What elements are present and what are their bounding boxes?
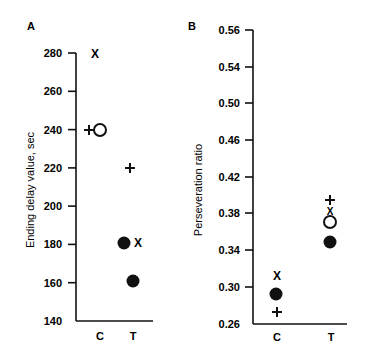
tick-label: 0.56 — [219, 24, 240, 36]
panel-b-category-c: C — [273, 331, 281, 343]
filled-circle-marker — [324, 236, 337, 249]
panel-a-category-t: T — [130, 330, 137, 342]
panel-a-category-c: C — [96, 330, 104, 342]
tick-label: 240 — [44, 124, 62, 136]
x-marker: X — [134, 236, 142, 250]
plus-marker — [272, 307, 282, 317]
panel-b-label: B — [188, 20, 196, 32]
panel-a-y-ticks — [68, 53, 76, 283]
x-marker: X — [273, 269, 281, 283]
panel-b: B Perseveration ratio 0.56 0.54 0.50 0.4… — [188, 20, 347, 343]
open-circle-marker — [94, 124, 106, 136]
panel-a-y-tick-labels: 280 260 240 220 200 180 160 140 — [44, 47, 62, 327]
plus-marker — [125, 163, 135, 173]
tick-label: 0.30 — [219, 281, 240, 293]
tick-label: 0.42 — [219, 171, 240, 183]
plus-marker — [325, 195, 335, 205]
tick-label: 180 — [44, 238, 62, 250]
tick-label: 280 — [44, 47, 62, 59]
tick-label: 160 — [44, 277, 62, 289]
plus-marker — [84, 125, 94, 135]
figure: A Ending delay value, sec 280 260 240 22… — [0, 0, 371, 356]
tick-label: 0.50 — [219, 97, 240, 109]
tick-label: 0.54 — [219, 61, 241, 73]
tick-label: 260 — [44, 85, 62, 97]
panel-b-category-t: T — [328, 331, 335, 343]
tick-label: 220 — [44, 162, 62, 174]
tick-label: 0.34 — [219, 244, 241, 256]
tick-label: 200 — [44, 200, 62, 212]
tick-label: 0.26 — [219, 318, 240, 330]
filled-circle-marker — [118, 237, 131, 250]
panel-a-y-axis-title: Ending delay value, sec — [24, 131, 36, 248]
tick-label: 0.38 — [219, 207, 240, 219]
filled-circle-marker — [127, 275, 140, 288]
panel-a: A Ending delay value, sec 280 260 240 22… — [24, 20, 153, 342]
panel-b-y-axis-title: Perseveration ratio — [192, 144, 204, 236]
tick-label: 140 — [44, 315, 62, 327]
filled-circle-marker — [270, 288, 283, 301]
x-marker: X — [91, 47, 99, 61]
tick-label: 0.46 — [219, 134, 240, 146]
panel-b-y-tick-labels: 0.56 0.54 0.50 0.46 0.42 0.38 0.34 0.30 … — [219, 24, 241, 330]
open-circle-marker — [324, 216, 336, 228]
panel-b-y-ticks — [245, 30, 253, 287]
panel-a-label: A — [27, 20, 35, 32]
